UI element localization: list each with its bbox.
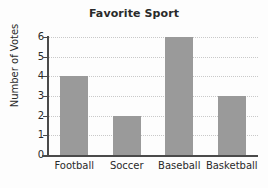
y-axis-tick-label: 4 xyxy=(26,71,44,81)
chart-title: Favorite Sport xyxy=(0,7,268,20)
bar xyxy=(165,37,193,155)
x-axis-tick-label: Football xyxy=(48,160,101,172)
y-axis-line xyxy=(47,36,49,155)
x-axis-tick-label: Soccer xyxy=(101,160,154,172)
y-axis-tick-label: 1 xyxy=(26,130,44,140)
y-axis-tick-label: 2 xyxy=(26,111,44,121)
x-axis-tick-label: Baseball xyxy=(153,160,206,172)
plot-area xyxy=(48,37,258,155)
bar xyxy=(218,96,246,155)
bar xyxy=(60,76,88,155)
x-axis-line xyxy=(42,155,258,157)
bar xyxy=(113,116,141,155)
y-axis-tick-label: 6 xyxy=(26,32,44,42)
x-axis-tick-label: Basketball xyxy=(206,160,259,172)
y-axis-tick-label: 3 xyxy=(26,91,44,101)
gridline xyxy=(48,57,258,58)
x-axis-tick-labels: FootballSoccerBaseballBasketball xyxy=(44,160,264,174)
y-axis-title: Number of Votes xyxy=(9,16,20,116)
gridline xyxy=(48,37,258,38)
y-axis-tick-labels: 0123456 xyxy=(26,37,44,155)
bar-chart-figure: Favorite Sport Number of Votes 0123456 F… xyxy=(0,0,268,188)
y-axis-tick-label: 5 xyxy=(26,52,44,62)
